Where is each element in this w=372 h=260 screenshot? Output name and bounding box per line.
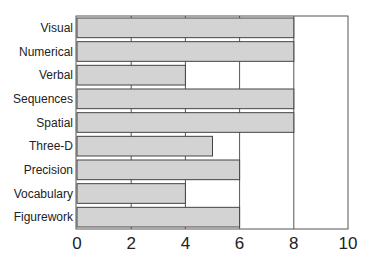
category-label: Numerical (19, 45, 73, 59)
bar-numerical (77, 42, 294, 62)
category-label: Spatial (36, 116, 73, 130)
bars (77, 18, 294, 227)
category-label: Visual (41, 21, 73, 35)
x-tick-label: 0 (72, 234, 81, 253)
bar-verbal (77, 65, 185, 85)
x-tick-label: 2 (126, 234, 135, 253)
category-label: Three-D (29, 139, 73, 153)
x-tick-label: 8 (289, 234, 298, 253)
category-label: Verbal (39, 68, 73, 82)
bar-precision (77, 160, 240, 180)
category-label: Figurework (14, 210, 74, 224)
bar-spatial (77, 113, 294, 133)
category-label: Precision (24, 163, 73, 177)
x-tick-label: 6 (235, 234, 244, 253)
category-label: Vocabulary (14, 187, 73, 201)
x-tick-labels: 0246810 (72, 234, 357, 253)
bar-visual (77, 18, 294, 38)
category-labels: VisualNumericalVerbalSequencesSpatialThr… (13, 21, 74, 224)
bar-three-d (77, 136, 213, 156)
bar-vocabulary (77, 184, 185, 204)
x-tick-label: 4 (181, 234, 190, 253)
bar-chart: VisualNumericalVerbalSequencesSpatialThr… (0, 0, 372, 260)
x-tick-label: 10 (339, 234, 358, 253)
bar-figurework (77, 207, 240, 227)
category-label: Sequences (13, 92, 73, 106)
bar-sequences (77, 89, 294, 109)
